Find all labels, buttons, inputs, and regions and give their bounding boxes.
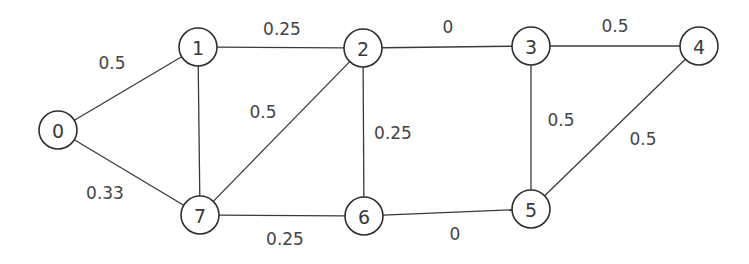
- node-0: 0: [39, 111, 77, 149]
- node-label: 2: [357, 38, 369, 60]
- edge-2-6: [363, 67, 364, 197]
- edge-weight-7-2: 0.5: [249, 102, 276, 122]
- node-label: 4: [693, 36, 705, 58]
- node-7: 7: [181, 196, 219, 234]
- edge-7-2: [213, 62, 349, 202]
- node-1: 1: [179, 28, 217, 66]
- node-label: 3: [525, 36, 537, 58]
- edge-weight-3-5: 0.5: [547, 110, 574, 130]
- edge-weight-3-4: 0.5: [601, 16, 628, 36]
- edge-weight-7-6: 0.25: [266, 229, 304, 249]
- edge-weight-0-1: 0.5: [98, 53, 125, 73]
- graph-diagram: 0.50.330.250.50.2500.50.50.50.250 012345…: [0, 0, 749, 264]
- edge-weight-2-3: 0: [443, 17, 454, 37]
- edge-7-6: [219, 215, 345, 216]
- node-label: 6: [358, 206, 370, 228]
- node-2: 2: [344, 29, 382, 67]
- edge-weight-0-7: 0.33: [86, 183, 124, 203]
- edge-1-7: [198, 66, 200, 196]
- edge-weight-1-2: 0.25: [263, 19, 301, 39]
- edge-6-5: [383, 210, 512, 215]
- node-3: 3: [512, 27, 550, 65]
- node-6: 6: [345, 197, 383, 235]
- node-label: 1: [192, 37, 204, 59]
- edge-weight-4-5: 0.5: [629, 129, 656, 149]
- edge-1-2: [217, 47, 344, 48]
- node-label: 5: [525, 199, 537, 221]
- edge-0-1: [74, 57, 181, 121]
- node-label: 0: [52, 120, 64, 142]
- node-4: 4: [680, 27, 718, 65]
- edge-weight-6-5: 0: [450, 224, 461, 244]
- edge-2-3: [382, 46, 512, 48]
- node-5: 5: [512, 190, 550, 228]
- node-label: 7: [194, 205, 206, 227]
- edge-weight-2-6: 0.25: [374, 123, 412, 143]
